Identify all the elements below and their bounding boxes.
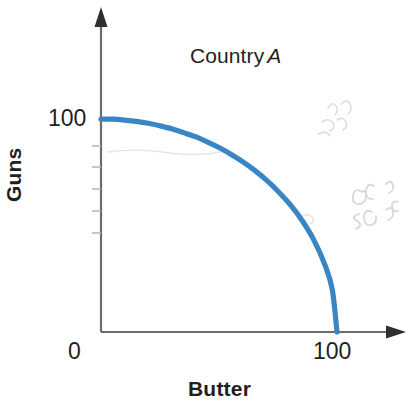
x-axis-tick-label-0: 0: [68, 340, 81, 363]
y-axis-tick-label-100: 100: [48, 107, 86, 130]
ppf-chart-figure: CountryA 100 0 100 Butter Guns: [0, 0, 412, 408]
y-axis-title: Guns: [3, 148, 24, 202]
chart-title: CountryA: [190, 45, 281, 66]
x-axis-title: Butter: [188, 378, 251, 399]
chart-title-letter: A: [264, 44, 281, 67]
x-axis-tick-label-100: 100: [313, 340, 351, 363]
chart-title-word: Country: [190, 44, 264, 67]
